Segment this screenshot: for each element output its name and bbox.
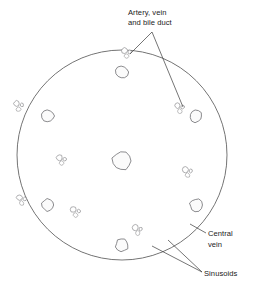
central-veins-group	[17, 50, 227, 260]
triad-vessel	[70, 207, 76, 212]
triad-vessel	[189, 169, 192, 173]
triad-vessel	[124, 54, 129, 58]
label-sinusoids: Sinusoids	[204, 269, 238, 278]
liver-lobule-diagram: Artery, vein and bile duct Central vein …	[0, 0, 253, 290]
triad-vessel	[122, 48, 128, 54]
triad-vessel	[77, 209, 81, 213]
central-vein-lobule-bottom	[115, 239, 127, 252]
triad-vessel	[20, 103, 23, 107]
triad-vessel	[136, 231, 140, 236]
triad-vessel	[63, 157, 67, 160]
label-portal-triad-line2: and bile duct	[128, 18, 173, 27]
label-central-vein-line1: Central	[208, 229, 233, 238]
triad-vessel	[139, 227, 142, 230]
label-portal-triad-line1: Artery, vein	[128, 8, 166, 17]
triad-vessel	[132, 224, 138, 230]
triad-vessel	[23, 197, 27, 201]
triad-vessel	[182, 167, 188, 173]
label-central-vein-line2: vein	[208, 240, 222, 249]
triad-vessel	[59, 161, 64, 166]
